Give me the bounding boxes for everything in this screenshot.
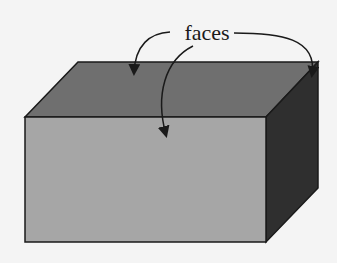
front-face	[25, 117, 266, 242]
diagram-canvas: faces	[0, 0, 337, 263]
box-faces-diagram: faces	[0, 0, 337, 263]
faces-label: faces	[184, 20, 229, 45]
